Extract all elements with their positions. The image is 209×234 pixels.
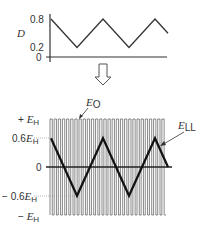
tick-label-neg-0-6-eh: − 0.6EH [2, 190, 37, 204]
hollow-down-arrow-icon [95, 64, 111, 85]
ell-arrowhead-icon [160, 141, 166, 146]
y-axis-symbol-d: D [16, 27, 25, 39]
duty-cycle-line [51, 19, 168, 48]
label-eo: EO [85, 96, 101, 110]
tick-label-plus-eh: + EH [18, 113, 39, 127]
tick-label-0-8: 0.8 [30, 14, 44, 25]
tick-label-zero: 0 [36, 162, 42, 173]
diagram-canvas: D 0.8 0.2 0 + EH 0.6EH 0 − 0.6EH − EH [0, 0, 209, 234]
output-voltage-plot: + EH 0.6EH 0 − 0.6EH − EH EO ELL [2, 96, 196, 224]
tick-label-neg-eh: − EH [18, 210, 39, 224]
label-ell: ELL [177, 119, 196, 133]
duty-cycle-plot: D 0.8 0.2 0 [16, 14, 168, 63]
ell-pointer [162, 132, 184, 145]
tick-label-0-6-eh: 0.6EH [12, 132, 39, 146]
tick-label-0: 0 [36, 52, 42, 63]
